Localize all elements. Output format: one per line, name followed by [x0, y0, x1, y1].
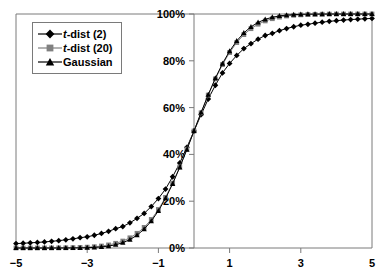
legend-item-t-dist-20: t-dist (20): [37, 41, 113, 55]
svg-text:3: 3: [298, 257, 304, 269]
svg-text:60%: 60%: [163, 102, 185, 114]
legend-item-t-dist-2: t-dist (2): [37, 27, 113, 41]
legend-item-gaussian: Gaussian: [37, 55, 113, 69]
svg-text:−1: −1: [152, 257, 165, 269]
svg-text:100%: 100%: [157, 8, 185, 20]
chart-root: 0%20%40%60%80%100% −5−3−1135 t-dist (2) …: [0, 0, 388, 278]
legend-item-label: t-dist (20): [63, 42, 113, 54]
triangle-icon: [37, 55, 63, 69]
diamond-icon: [37, 27, 63, 41]
svg-text:80%: 80%: [163, 55, 185, 67]
svg-text:−5: −5: [10, 257, 23, 269]
svg-text:−3: −3: [81, 257, 94, 269]
x-axis-tick-labels: −5−3−1135: [10, 257, 375, 269]
square-icon: [37, 41, 63, 55]
svg-text:5: 5: [369, 257, 375, 269]
svg-text:0%: 0%: [169, 242, 185, 254]
svg-text:1: 1: [227, 257, 233, 269]
legend-item-label: t-dist (2): [63, 28, 106, 40]
legend-item-label: Gaussian: [63, 56, 113, 68]
chart-legend: t-dist (2) t-dist (20) Gaussian: [32, 22, 122, 74]
y-axis-tick-labels: 0%20%40%60%80%100%: [157, 8, 185, 254]
